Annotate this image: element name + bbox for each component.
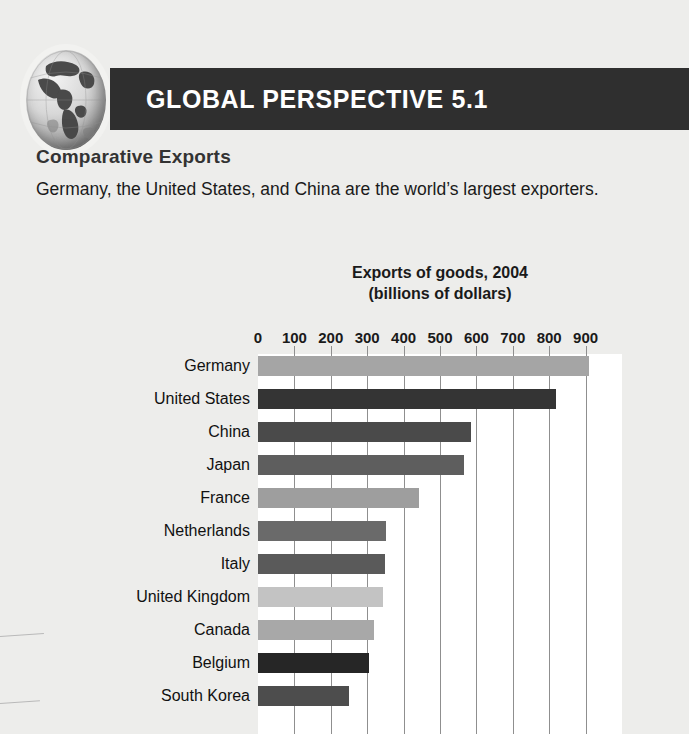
gridline-700 bbox=[513, 354, 514, 734]
tickmark-300 bbox=[367, 346, 368, 354]
bar-china bbox=[258, 422, 471, 442]
category-label-italy: Italy bbox=[221, 554, 250, 574]
category-label-belgium: Belgium bbox=[192, 653, 250, 673]
category-label-united-states: United States bbox=[154, 389, 250, 409]
bar-united-kingdom bbox=[258, 587, 383, 607]
bar-south-korea bbox=[258, 686, 349, 706]
tickmark-700 bbox=[513, 346, 514, 354]
category-label-canada: Canada bbox=[194, 620, 250, 640]
tickmark-900 bbox=[586, 346, 587, 354]
chart-title-line1: Exports of goods, 2004 bbox=[258, 262, 622, 283]
category-label-france: France bbox=[200, 488, 250, 508]
globe-icon bbox=[26, 50, 106, 150]
exports-bar-chart: Exports of goods, 2004 (billions of doll… bbox=[0, 262, 689, 734]
bar-japan bbox=[258, 455, 464, 475]
intro-paragraph: Germany, the United States, and China ar… bbox=[36, 176, 614, 202]
x-tick-label-400: 400 bbox=[391, 329, 416, 346]
y-axis-category-labels: GermanyUnited StatesChinaJapanFranceNeth… bbox=[60, 354, 250, 734]
tickmark-600 bbox=[476, 346, 477, 354]
bar-canada bbox=[258, 620, 374, 640]
category-label-united-kingdom: United Kingdom bbox=[136, 587, 250, 607]
gridline-800 bbox=[549, 354, 550, 734]
section-subhead: Comparative Exports bbox=[36, 146, 231, 168]
x-tick-label-200: 200 bbox=[318, 329, 343, 346]
x-tick-label-300: 300 bbox=[355, 329, 380, 346]
tickmark-200 bbox=[331, 346, 332, 354]
globe-badge bbox=[20, 44, 112, 156]
category-label-germany: Germany bbox=[184, 356, 250, 376]
plot-area bbox=[258, 354, 622, 734]
gridline-400 bbox=[404, 354, 405, 734]
chart-title: Exports of goods, 2004 (billions of doll… bbox=[258, 262, 622, 304]
x-tick-label-700: 700 bbox=[500, 329, 525, 346]
gridline-600 bbox=[476, 354, 477, 734]
tickmark-800 bbox=[549, 346, 550, 354]
bar-united-states bbox=[258, 389, 556, 409]
chart-title-line2: (billions of dollars) bbox=[258, 283, 622, 304]
x-tick-label-500: 500 bbox=[427, 329, 452, 346]
gridline-300 bbox=[367, 354, 368, 734]
tickmark-100 bbox=[294, 346, 295, 354]
x-tick-label-0: 0 bbox=[254, 329, 262, 346]
gridline-100 bbox=[294, 354, 295, 734]
category-label-netherlands: Netherlands bbox=[164, 521, 250, 541]
gridline-200 bbox=[331, 354, 332, 734]
banner-title: GLOBAL PERSPECTIVE 5.1 bbox=[146, 68, 488, 130]
x-tick-label-100: 100 bbox=[282, 329, 307, 346]
tickmark-400 bbox=[404, 346, 405, 354]
bar-italy bbox=[258, 554, 385, 574]
bar-belgium bbox=[258, 653, 369, 673]
bar-netherlands bbox=[258, 521, 386, 541]
x-tick-label-800: 800 bbox=[537, 329, 562, 346]
category-label-japan: Japan bbox=[206, 455, 250, 475]
bar-france bbox=[258, 488, 419, 508]
tickmark-500 bbox=[440, 346, 441, 354]
x-tick-label-900: 900 bbox=[573, 329, 598, 346]
category-label-china: China bbox=[208, 422, 250, 442]
gridline-900 bbox=[586, 354, 587, 734]
x-tick-label-600: 600 bbox=[464, 329, 489, 346]
bar-germany bbox=[258, 356, 589, 376]
category-label-south-korea: South Korea bbox=[161, 686, 250, 706]
gridline-500 bbox=[440, 354, 441, 734]
